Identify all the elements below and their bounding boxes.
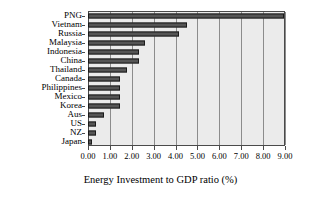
category-tick: [82, 88, 85, 89]
category-tick: [82, 61, 85, 62]
bar: [88, 85, 120, 90]
energy-investment-bar-chart: PNGVietnamRussiaMalaysiaIndonesiaChinaTh…: [0, 0, 321, 197]
bar-row: [88, 29, 285, 38]
category-tick: [82, 34, 85, 35]
x-axis-tick-label: 6.00: [212, 151, 227, 161]
x-axis-tick: [197, 146, 198, 150]
category-tick: [82, 43, 85, 44]
bar: [88, 112, 104, 117]
x-axis-tick-label: 0.00: [81, 151, 96, 161]
gridline: [285, 12, 286, 145]
bar-row: [88, 128, 285, 137]
category-label-row: Japan: [0, 137, 85, 146]
x-axis-tick-label: 5.00: [190, 151, 205, 161]
category-tick: [82, 142, 85, 143]
bar-row: [88, 119, 285, 128]
bar: [88, 49, 139, 54]
bar-row: [88, 20, 285, 29]
bar: [88, 76, 120, 81]
category-tick: [82, 106, 85, 107]
bar-row: [88, 65, 285, 74]
bar-row: [88, 137, 285, 146]
x-axis-tick-label: 9.00: [278, 151, 293, 161]
x-axis-tick-label: 7.00: [234, 151, 249, 161]
bar: [88, 13, 284, 18]
bar-row: [88, 56, 285, 65]
x-axis-tick: [176, 146, 177, 150]
bar-row: [88, 74, 285, 83]
x-axis-tick: [154, 146, 155, 150]
x-axis-tick: [88, 146, 89, 150]
bar-row: [88, 47, 285, 56]
category-tick: [82, 79, 85, 80]
bar: [88, 22, 187, 27]
bar: [88, 67, 127, 72]
bar: [88, 31, 179, 36]
bar-row: [88, 83, 285, 92]
bar-row: [88, 38, 285, 47]
value-axis: 0.001.002.003.004.005.006.007.008.009.00: [88, 146, 285, 170]
bar: [88, 121, 96, 126]
category-tick: [82, 52, 85, 53]
bar: [88, 130, 96, 135]
category-tick: [82, 16, 85, 17]
bar: [88, 94, 120, 99]
x-axis-tick-label: 8.00: [256, 151, 271, 161]
x-axis-tick-label: 2.00: [124, 151, 139, 161]
category-axis: PNGVietnamRussiaMalaysiaIndonesiaChinaTh…: [0, 11, 85, 146]
bar-row: [88, 11, 285, 20]
category-tick: [82, 25, 85, 26]
bar-row: [88, 92, 285, 101]
x-axis-title: Energy Investment to GDP ratio (%): [0, 174, 321, 185]
x-axis-tick: [110, 146, 111, 150]
category-tick: [82, 133, 85, 134]
x-axis-tick: [241, 146, 242, 150]
bar-row: [88, 110, 285, 119]
category-tick: [82, 124, 85, 125]
bar: [88, 139, 92, 144]
x-axis-tick-label: 3.00: [146, 151, 161, 161]
category-tick: [82, 97, 85, 98]
x-axis-tick: [219, 146, 220, 150]
bar: [88, 40, 145, 45]
x-axis-tick: [285, 146, 286, 150]
bar: [88, 103, 120, 108]
bar-row: [88, 101, 285, 110]
x-axis-tick-label: 4.00: [168, 151, 183, 161]
bar: [88, 58, 139, 63]
category-tick: [82, 70, 85, 71]
bars-layer: [88, 11, 285, 146]
x-axis-tick-label: 1.00: [102, 151, 117, 161]
category-tick: [82, 115, 85, 116]
x-axis-tick: [132, 146, 133, 150]
x-axis-tick: [263, 146, 264, 150]
